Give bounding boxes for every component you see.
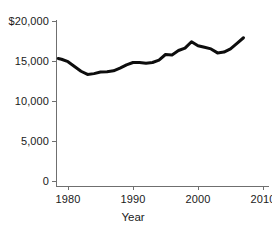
y-axis-tick-label: 0: [43, 175, 49, 186]
y-axis-tick-label: 15,000: [15, 55, 49, 66]
x-axis-title: Year: [121, 211, 144, 223]
y-axis-tick-label: 5,000: [21, 135, 49, 146]
x-axis-tick-label: 2000: [186, 194, 211, 205]
y-axis-tick-label: 10,000: [15, 95, 49, 106]
data-series-line: [58, 38, 243, 75]
y-axis: [52, 20, 57, 186]
x-axis-tick-label: 1980: [56, 194, 81, 205]
line-chart: 05,00010,00015,000$20,000 19801990200020…: [0, 0, 272, 236]
x-axis-tick-label: 2010: [251, 194, 272, 205]
x-axis-tick-label: 1990: [121, 194, 146, 205]
x-axis: [56, 186, 269, 190]
y-axis-tick-label: $20,000: [9, 16, 49, 27]
